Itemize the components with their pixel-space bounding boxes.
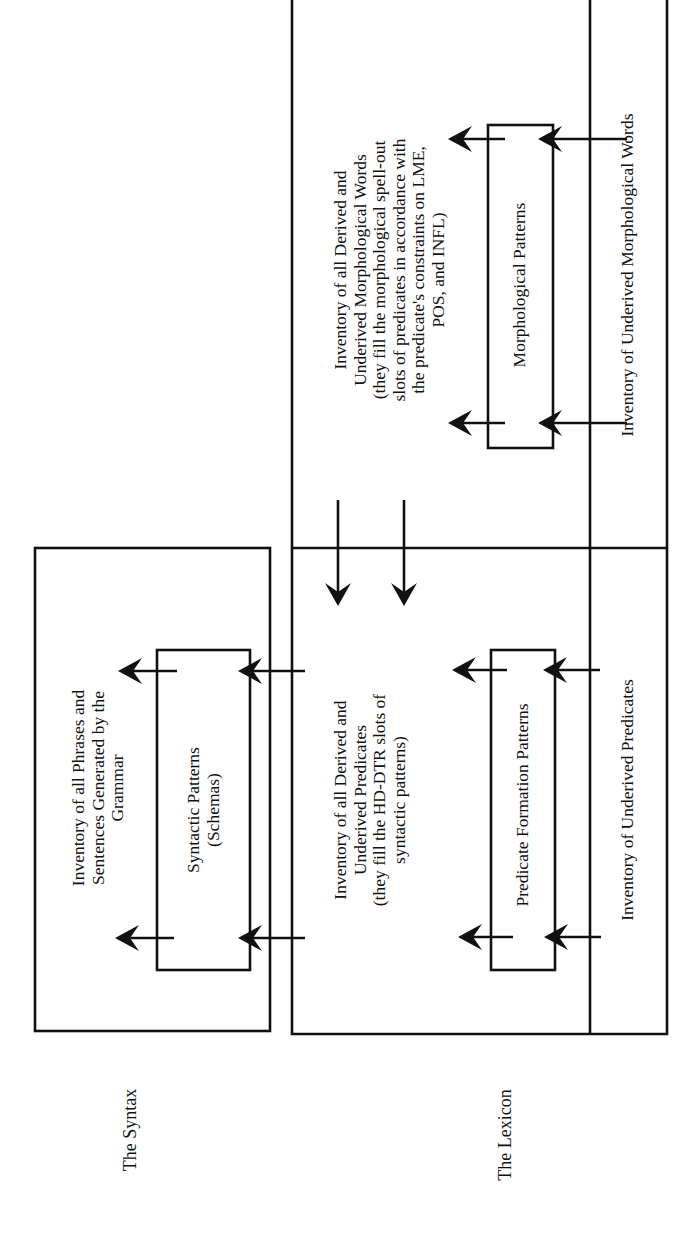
arrows-morph-to-predicates [325,500,417,606]
morphological-patterns-label: Morphological Patterns [510,203,530,368]
predicate-formation-label: Predicate Formation Patterns [513,703,533,906]
underived-morphological-words-inventory: Inventory of Underived Morphological Wor… [618,114,638,437]
syntax-output-inventory: Inventory of all Phrases and Sentences G… [69,690,128,886]
morphology-output-inventory: Inventory of all Derived and Underived M… [331,139,449,402]
grammar-architecture-diagram: Inventory of all Phrases and Sentences G… [0,0,681,1247]
lexicon-section-label: The Lexicon [495,1089,515,1180]
arrows-morphology [448,126,627,436]
underived-predicates-inventory: Inventory of Underived Predicates [618,679,638,921]
predicates-output-inventory: Inventory of all Derived and Underived P… [331,694,409,906]
syntactic-patterns-label: Syntactic Patterns (Schemas) [184,747,223,873]
syntax-section-label: The Syntax [120,1089,140,1172]
